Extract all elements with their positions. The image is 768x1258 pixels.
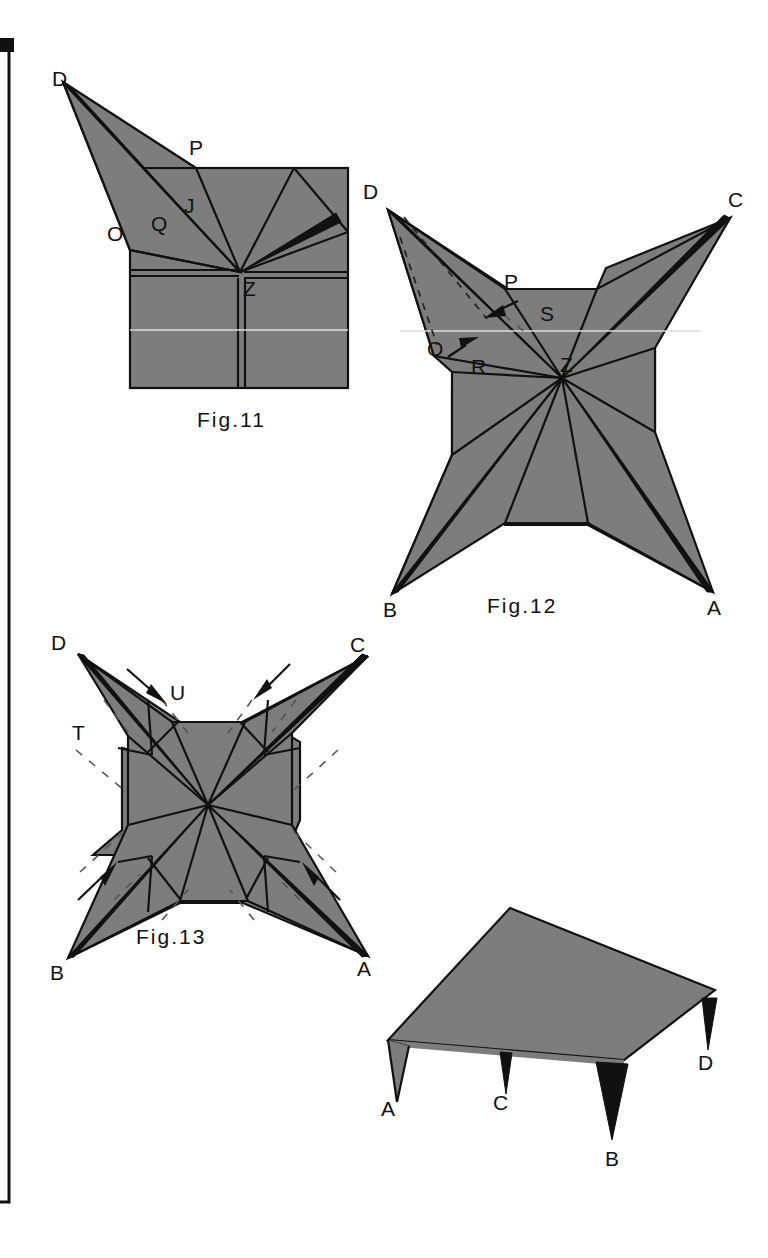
fig11-label-d: D: [52, 67, 67, 90]
fig12-label-o: O: [427, 337, 443, 360]
fig13-label-d: D: [51, 631, 66, 654]
fig11-label-j: J: [184, 194, 195, 217]
fig13-label-u: U: [170, 681, 185, 704]
fig13-label-b: B: [50, 961, 64, 984]
fig14-label-c: C: [493, 1091, 508, 1114]
patent-drawing-sheet: D P J Q O Z Fig.11: [0, 0, 768, 1258]
fig11-label-z: Z: [243, 277, 256, 300]
fig12-label-z: Z: [560, 353, 573, 376]
drawing-canvas: D P J Q O Z Fig.11: [0, 0, 768, 1258]
fig11-label-o: O: [107, 222, 123, 245]
fig12-label-p: P: [504, 270, 518, 293]
fig12-label-s: S: [540, 302, 554, 325]
fig12-label-r: R: [471, 355, 486, 378]
fig13-label-t: T: [72, 721, 85, 744]
fig12-label-d: D: [363, 180, 378, 203]
fig14-label-a: A: [381, 1097, 395, 1120]
margin-corner-block: [0, 38, 14, 52]
fig14-label-b: B: [605, 1147, 619, 1170]
fig13-label-a: A: [357, 957, 371, 980]
fig11-caption: Fig.11: [197, 408, 266, 431]
fig12-caption: Fig.12: [487, 594, 557, 617]
fig11-label-p: P: [189, 136, 203, 159]
fig12-label-b: B: [383, 598, 397, 621]
fig13-label-c: C: [350, 633, 365, 656]
fig12-label-a: A: [707, 596, 721, 619]
fig12-label-c: C: [728, 188, 743, 211]
fig14-label-d: D: [698, 1051, 713, 1074]
fig13-caption: Fig.13: [136, 925, 206, 948]
fig11-label-q: Q: [151, 212, 167, 235]
